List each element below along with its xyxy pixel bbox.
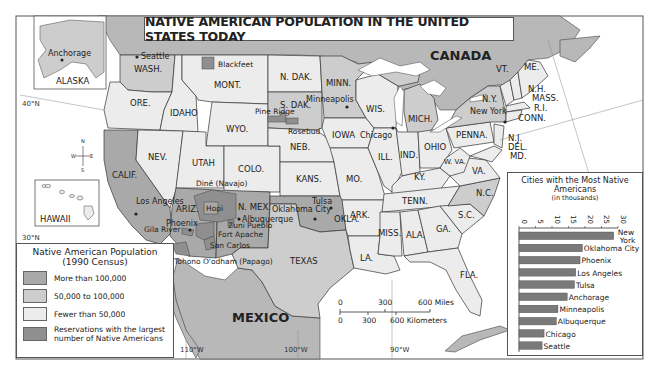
label-mich: MICH. <box>408 114 433 124</box>
compass-n: N <box>81 138 85 144</box>
label-sc: S.C. <box>458 210 475 220</box>
label-calif: CALIF. <box>112 170 137 180</box>
city-oklahoma-city: Oklahoma City <box>272 205 331 214</box>
label-conn: CONN. <box>518 113 546 123</box>
chart-bar <box>519 305 558 313</box>
legend-item: Fewer than 50,000 <box>23 307 167 321</box>
label-neb: NEB. <box>290 142 310 152</box>
city-minneapolis: Minneapolis <box>306 95 354 104</box>
compass-e: E <box>90 153 93 159</box>
label-ri: R.I. <box>534 103 548 113</box>
label-lat-40: 40°N <box>22 100 40 108</box>
chart-plot: 051015202530NewYorkOklahoma CityPhoenixL… <box>508 173 644 357</box>
res-hopi: Hopi <box>206 204 223 213</box>
chart-bar <box>519 244 582 252</box>
chart-bar-label: Los Angeles <box>577 269 622 278</box>
state-nj <box>494 124 504 148</box>
label-ndak: N. DAK. <box>280 72 312 82</box>
chart-tick-label: 25 <box>602 215 610 224</box>
bar-chart: Cities with the Most Native Americans (i… <box>507 172 643 356</box>
label-fla: FLA. <box>460 270 478 280</box>
label-va: VA. <box>472 166 486 176</box>
city-tulsa: Tulsa <box>311 197 332 206</box>
legend-item: Reservations with the largest number of … <box>23 325 167 343</box>
compass-w: W <box>71 153 76 159</box>
label-ny: N.Y. <box>482 94 497 104</box>
res-navajo: Diné (Navajo) <box>196 179 247 188</box>
chart-tick-label: 10 <box>553 215 561 224</box>
label-alaska: ALASKA <box>56 76 89 86</box>
legend-swatch-50k-100k <box>23 289 47 303</box>
label-ill: ILL. <box>378 152 393 162</box>
label-lon-100: 100°W <box>284 346 308 354</box>
chart-tick-label: 20 <box>586 215 594 224</box>
chart-bar-label: Tulsa <box>575 281 595 290</box>
chart-bar-label: Anchorage <box>569 293 610 302</box>
label-ohio: OHIO <box>424 142 447 152</box>
chart-bar <box>519 330 544 338</box>
city-seattle: Seattle <box>141 52 169 61</box>
reservation-rosebud <box>286 118 298 124</box>
city-chicago: Chicago <box>360 131 392 140</box>
label-wva: W. VA. <box>444 158 466 166</box>
chart-bar-label: Minneapolis <box>559 305 604 314</box>
label-ala: ALA. <box>406 230 425 240</box>
label-utah: UTAH <box>192 158 215 168</box>
scale-miles-300: 300 <box>378 298 392 307</box>
label-ga: GA. <box>436 224 451 234</box>
label-nmex: N. MEX. <box>238 202 271 212</box>
legend-swatch-reservations <box>23 327 47 341</box>
label-me: ME. <box>524 62 539 72</box>
label-la: LA. <box>360 253 373 263</box>
label-lat-30: 30°N <box>22 234 40 242</box>
city-anchorage: Anchorage <box>48 49 91 58</box>
compass-s: S <box>81 167 84 173</box>
legend-item: More than 100,000 <box>23 271 167 285</box>
scale-km-0: 0 <box>338 316 343 325</box>
res-fort-apache: Fort Apache <box>218 230 263 239</box>
res-tohono-oodham: Tohono O'odham (Papago) <box>173 257 273 266</box>
label-mo: MO. <box>346 174 362 184</box>
label-nev: NEV. <box>148 152 167 162</box>
label-canada: CANADA <box>430 48 491 63</box>
legend-subtitle: (1990 Census) <box>23 257 167 267</box>
legend-title: Native American Population <box>23 247 167 257</box>
chart-tick-label: 15 <box>569 215 577 224</box>
label-iowa: IOWA <box>332 130 355 140</box>
label-wis: WIS. <box>366 104 385 114</box>
chart-bar <box>519 269 576 277</box>
legend-label: Fewer than 50,000 <box>54 310 125 319</box>
city-los-angeles: Los Angeles <box>136 197 184 206</box>
chart-tick-label: 5 <box>536 220 544 224</box>
res-gila-river: Gila River <box>144 225 181 234</box>
city-new-york: New York <box>470 107 507 116</box>
chart-bar-label: Albuquerque <box>558 317 606 326</box>
chart-bar-label: Seattle <box>544 342 571 351</box>
legend: Native American Population (1990 Census)… <box>16 243 174 358</box>
legend-swatch-more-100k <box>23 271 47 285</box>
chart-bar <box>519 317 556 325</box>
label-kans: KANS. <box>296 174 322 184</box>
chart-tick-label: 30 <box>619 215 627 224</box>
label-wash: WASH. <box>134 64 162 74</box>
label-wyo: WYO. <box>226 124 248 134</box>
scale-bar: 0 300 600 Miles 0 300 600 Kilometers <box>338 298 458 328</box>
legend-label: More than 100,000 <box>54 274 126 283</box>
scale-miles-600: 600 Miles <box>418 298 454 307</box>
scale-km-600: 600 Kilometers <box>390 316 447 325</box>
label-hawaii: HAWAII <box>40 214 71 224</box>
label-ore: ORE. <box>130 98 151 108</box>
legend-label: Reservations with the largest number of … <box>54 325 167 343</box>
res-blackfeet: Blackfeet <box>218 60 253 69</box>
label-penna: PENNA. <box>456 130 488 140</box>
label-mexico: MEXICO <box>232 310 289 325</box>
label-mass: MASS. <box>532 93 559 103</box>
label-nc: N.C. <box>476 188 494 198</box>
legend-label: 50,000 to 100,000 <box>54 292 124 301</box>
chart-bar-label: Phoenix <box>582 256 612 265</box>
label-ark: ARK. <box>350 210 370 220</box>
label-texas: TEXAS <box>289 256 318 266</box>
label-ky: KY. <box>414 172 425 182</box>
label-mont: MONT. <box>214 80 241 90</box>
chart-bar <box>519 293 567 301</box>
